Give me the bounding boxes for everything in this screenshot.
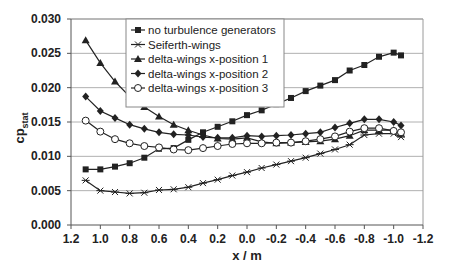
x-axis-title: x / m: [232, 248, 262, 263]
x-tick-label: 1.0: [92, 232, 109, 246]
y-tick-label: 0.030: [31, 12, 61, 26]
x-tick-label: 0.2: [209, 232, 226, 246]
legend-label: delta-wings x-position 2: [148, 68, 268, 80]
x-tick-label: -0.2: [266, 232, 287, 246]
y-tick-label: 0.000: [31, 218, 61, 232]
y-axis-ticks: 0.0000.0050.0100.0150.0200.0250.030: [31, 12, 71, 232]
y-tick-label: 0.015: [31, 115, 61, 129]
x-tick-label: -0.4: [295, 232, 316, 246]
legend-item: delta-wings x-position 1: [131, 53, 268, 65]
x-tick-label: -1.2: [413, 232, 434, 246]
y-axis-title: cpstat: [12, 112, 30, 143]
x-tick-label: -0.8: [354, 232, 375, 246]
x-tick-label: 0.8: [121, 232, 138, 246]
legend-label: Seiferth-wings: [148, 39, 221, 51]
y-tick-label: 0.005: [31, 184, 61, 198]
x-tick-label: 0.6: [151, 232, 168, 246]
y-tick-label: 0.010: [31, 149, 61, 163]
y-tick-label: 0.020: [31, 81, 61, 95]
legend: no turbulence generatorsSeiferth-wingsde…: [126, 19, 284, 107]
legend-item: delta-wings x-position 2: [131, 68, 268, 80]
legend-item: no turbulence generators: [131, 24, 276, 36]
legend-item: delta-wings x-position 3: [131, 82, 268, 94]
legend-label: delta-wings x-position 1: [148, 53, 268, 65]
x-tick-label: -0.6: [325, 232, 346, 246]
x-tick-label: 0.0: [239, 232, 256, 246]
chart: 0.0000.0050.0100.0150.0200.0250.030 1.21…: [0, 0, 451, 273]
x-axis-ticks: 1.21.00.80.60.40.20.0-0.2-0.4-0.6-0.8-1.…: [63, 225, 434, 246]
x-tick-label: 0.4: [180, 232, 197, 246]
x-tick-label: -1.0: [383, 232, 404, 246]
y-tick-label: 0.025: [31, 46, 61, 60]
legend-label: delta-wings x-position 3: [148, 82, 268, 94]
x-tick-label: 1.2: [63, 232, 80, 246]
legend-label: no turbulence generators: [148, 24, 276, 36]
